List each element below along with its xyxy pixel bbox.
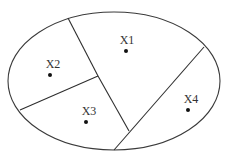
point-x3-marker (84, 120, 88, 124)
region-label-x2: X2 (46, 57, 61, 71)
point-x1-marker (124, 49, 128, 53)
point-x2-marker (48, 73, 52, 77)
region-label-x1: X1 (120, 33, 135, 47)
region-x3: X3 (82, 104, 97, 124)
point-x4-marker (186, 108, 190, 112)
region-label-x3: X3 (82, 104, 97, 118)
region-x1: X1 (120, 33, 135, 53)
region-x4: X4 (184, 92, 199, 112)
divider-x1-x3-boundary (98, 76, 129, 131)
region-x2: X2 (46, 57, 61, 77)
outer-ellipse (8, 12, 220, 150)
partition-diagram: X1 X2 X3 X4 (0, 0, 228, 162)
divider-x1-left-boundary (68, 18, 98, 76)
region-label-x4: X4 (184, 92, 199, 106)
